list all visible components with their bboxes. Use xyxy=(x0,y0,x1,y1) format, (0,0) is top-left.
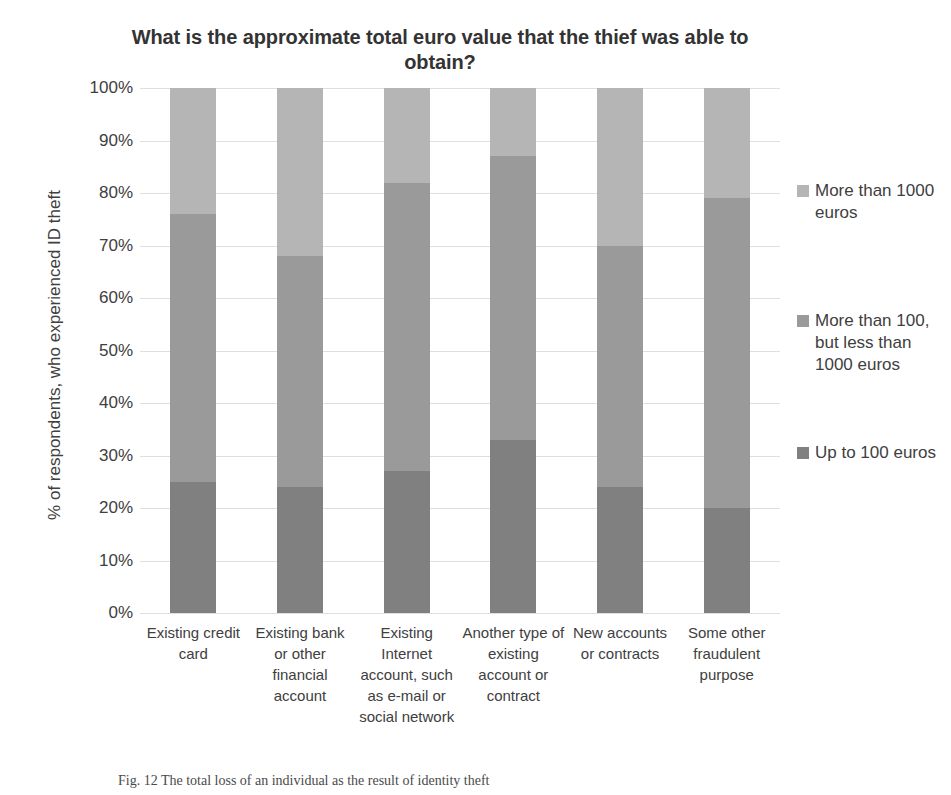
chart-figure: What is the approximate total euro value… xyxy=(0,0,951,795)
plot-area xyxy=(140,88,780,613)
bar-segment[interactable] xyxy=(277,256,323,487)
y-axis-tick-label: 30% xyxy=(55,446,133,466)
stacked-bar[interactable] xyxy=(490,88,536,613)
x-axis-category-labels: Existing credit cardExisting bank or oth… xyxy=(140,622,780,727)
y-axis-tick-label: 100% xyxy=(55,78,133,98)
x-axis-category-label: Existing credit card xyxy=(140,622,247,727)
bar-segment[interactable] xyxy=(384,471,430,613)
x-axis-category-label: Existing Internet account, such as e-mai… xyxy=(353,622,460,727)
y-axis-tick-label: 20% xyxy=(55,498,133,518)
chart-title: What is the approximate total euro value… xyxy=(95,25,785,75)
bar-slot xyxy=(140,88,247,613)
bar-slot xyxy=(460,88,567,613)
legend-label: More than 100, but less than 1000 euros xyxy=(815,310,947,376)
legend-label: More than 1000 euros xyxy=(815,180,947,224)
stacked-bar[interactable] xyxy=(170,88,216,613)
bar-segment[interactable] xyxy=(277,88,323,256)
bar-segment[interactable] xyxy=(277,487,323,613)
bar-slot xyxy=(353,88,460,613)
bar-series-container xyxy=(140,88,780,613)
bar-segment[interactable] xyxy=(597,246,643,488)
bar-segment[interactable] xyxy=(597,487,643,613)
bar-segment[interactable] xyxy=(597,88,643,246)
y-axis-tick-label: 60% xyxy=(55,288,133,308)
bar-segment[interactable] xyxy=(490,88,536,156)
bar-segment[interactable] xyxy=(704,198,750,508)
x-axis-category-label: Existing bank or other financial account xyxy=(247,622,354,727)
gridline xyxy=(140,613,780,614)
x-axis-category-label: New accounts or contracts xyxy=(567,622,674,727)
stacked-bar[interactable] xyxy=(384,88,430,613)
x-axis-category-label: Some other fraudulent purpose xyxy=(673,622,780,727)
y-axis-tick-label: 80% xyxy=(55,183,133,203)
stacked-bar[interactable] xyxy=(597,88,643,613)
y-axis-tick-label: 0% xyxy=(55,603,133,623)
bar-slot xyxy=(567,88,674,613)
legend-swatch-icon xyxy=(797,185,809,197)
y-axis-tick-label: 40% xyxy=(55,393,133,413)
bar-segment[interactable] xyxy=(490,440,536,613)
bar-segment[interactable] xyxy=(170,214,216,482)
y-axis-tick-label: 70% xyxy=(55,236,133,256)
bar-segment[interactable] xyxy=(704,88,750,198)
y-axis-tick-labels: 100%90%80%70%60%50%40%30%20%10%0% xyxy=(55,88,133,613)
bar-segment[interactable] xyxy=(170,88,216,214)
stacked-bar[interactable] xyxy=(704,88,750,613)
legend-swatch-icon xyxy=(797,315,809,327)
legend-item[interactable]: Up to 100 euros xyxy=(797,442,947,464)
stacked-bar[interactable] xyxy=(277,88,323,613)
bar-segment[interactable] xyxy=(704,508,750,613)
bar-segment[interactable] xyxy=(384,88,430,183)
x-axis-category-label: Another type of existing account or cont… xyxy=(460,622,567,727)
legend-label: Up to 100 euros xyxy=(815,442,936,464)
legend-item[interactable]: More than 100, but less than 1000 euros xyxy=(797,310,947,376)
legend-item[interactable]: More than 1000 euros xyxy=(797,180,947,224)
legend-swatch-icon xyxy=(797,447,809,459)
bar-segment[interactable] xyxy=(170,482,216,613)
bar-slot xyxy=(247,88,354,613)
bar-segment[interactable] xyxy=(384,183,430,472)
y-axis-tick-label: 10% xyxy=(55,551,133,571)
y-axis-tick-label: 90% xyxy=(55,131,133,151)
figure-caption: Fig. 12 The total loss of an individual … xyxy=(118,772,818,795)
bar-slot xyxy=(673,88,780,613)
bar-segment[interactable] xyxy=(490,156,536,440)
y-axis-tick-label: 50% xyxy=(55,341,133,361)
